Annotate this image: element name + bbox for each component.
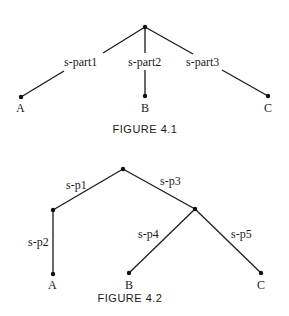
edge-label: s-p1 [66, 178, 87, 192]
edge-label: s-p3 [160, 174, 181, 188]
leaf-label: C [257, 278, 265, 292]
leaf-label: B [141, 101, 149, 115]
node-a [51, 272, 55, 276]
node-a [19, 95, 23, 99]
edge-label: s-p2 [28, 235, 49, 249]
node-n2 [193, 207, 197, 211]
edge-s-p5 [195, 209, 261, 273]
node-root [121, 167, 125, 171]
leaf-label: C [264, 101, 272, 115]
node-b [143, 94, 147, 98]
edge-s-p1 [53, 169, 123, 210]
edge-label: s-part3 [186, 55, 219, 69]
leaf-label: B [125, 278, 133, 292]
node-c [266, 94, 270, 98]
figure-4-1: s-part1 s-part2 s-part3 A B C FIGURE 4.1 [16, 25, 272, 135]
edge-label: s-p4 [138, 227, 159, 241]
edge-s-part1-upper [103, 27, 145, 53]
figure-4-2: s-p1 s-p2 s-p3 s-p4 s-p5 A B C FIGURE 4.… [28, 167, 265, 304]
figure-caption: FIGURE 4.2 [98, 292, 163, 304]
leaf-label: A [16, 101, 25, 115]
edge-s-part3-lower [222, 70, 268, 96]
edge-s-p4 [129, 209, 195, 273]
node-root [143, 25, 147, 29]
node-c [259, 271, 263, 275]
leaf-label: A [48, 278, 57, 292]
figure-caption: FIGURE 4.1 [113, 123, 178, 135]
node-n1 [51, 208, 55, 212]
edge-label: s-p5 [231, 227, 252, 241]
edge-label: s-part2 [128, 55, 161, 69]
edge-label: s-part1 [64, 55, 97, 69]
edge-s-part1-lower [21, 71, 64, 97]
node-b [127, 271, 131, 275]
edge-s-part3-upper [145, 27, 193, 54]
diagram-canvas: s-part1 s-part2 s-part3 A B C FIGURE 4.1… [0, 0, 289, 316]
edge-s-p3 [123, 169, 195, 209]
